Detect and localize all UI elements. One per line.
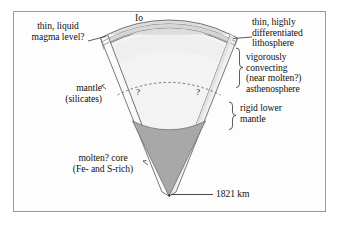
label-lithosphere: thin, highly differentiated lithosphere [252, 17, 332, 49]
label-lower-mantle: rigid lower mantle [240, 103, 312, 124]
page-title: Io [114, 13, 164, 24]
label-core: molten? core (Fe- and S-rich) [58, 153, 148, 174]
leader-scale [168, 195, 213, 197]
brace-lower-mantle [229, 102, 236, 130]
uncertainty-mark-left: ? [133, 87, 143, 98]
io-interior-diagram: Io thin, liquid magma level? thin, highl… [0, 0, 339, 226]
label-mantle: mantle (silicates) [36, 83, 102, 104]
label-asthenosphere: vigorously convecting (near molten?) ast… [246, 52, 332, 94]
label-magma: thin, liquid magma level? [19, 21, 97, 42]
leader-mantle [102, 85, 107, 90]
brace-asthenosphere [236, 48, 243, 88]
uncertainty-mark-right: ? [193, 87, 203, 98]
label-scale: 1821 km [216, 189, 278, 200]
